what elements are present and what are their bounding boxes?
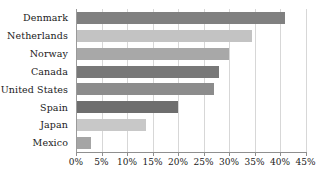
category-label: United States xyxy=(0,81,72,99)
axis-tick xyxy=(229,152,230,156)
category-label: Netherlands xyxy=(0,27,72,45)
category-label: Norway xyxy=(0,45,72,63)
axis-tick-label: 0% xyxy=(69,157,83,167)
axis-tick-label: 45% xyxy=(295,157,315,167)
bar xyxy=(76,66,219,78)
axis-tick-label: 35% xyxy=(244,157,264,167)
category-axis-labels: Denmark Netherlands Norway Canada United… xyxy=(0,9,72,152)
bar-series xyxy=(76,9,306,152)
bar-row xyxy=(76,63,306,81)
bar-row xyxy=(76,45,306,63)
value-axis-spine xyxy=(76,9,77,153)
axis-tick-label: 10% xyxy=(117,157,137,167)
bar-row xyxy=(76,98,306,116)
axis-tick-label: 25% xyxy=(193,157,213,167)
bar xyxy=(76,12,285,24)
category-label: Canada xyxy=(0,63,72,81)
bar-row xyxy=(76,116,306,134)
bar xyxy=(76,137,91,149)
gridline xyxy=(306,9,307,152)
axis-tick xyxy=(153,152,154,156)
axis-tick-label: 30% xyxy=(219,157,239,167)
axis-tick xyxy=(178,152,179,156)
bar xyxy=(76,30,252,42)
axis-tick xyxy=(204,152,205,156)
category-label: Denmark xyxy=(0,9,72,27)
axis-tick xyxy=(127,152,128,156)
value-axis-tick-labels: 0%5%10%15%20%25%30%35%40%45% xyxy=(0,157,331,179)
axis-tick xyxy=(102,152,103,156)
bar-row xyxy=(76,81,306,99)
value-axis-line xyxy=(76,152,306,153)
bar-row xyxy=(76,134,306,152)
bar xyxy=(76,83,214,95)
axis-tick-label: 5% xyxy=(94,157,108,167)
category-label: Mexico xyxy=(0,134,72,152)
bar xyxy=(76,119,146,131)
axis-tick-label: 15% xyxy=(142,157,162,167)
axis-tick-label: 40% xyxy=(270,157,290,167)
axis-tick xyxy=(76,152,77,156)
bar xyxy=(76,48,229,60)
axis-tick xyxy=(255,152,256,156)
axis-tick xyxy=(306,152,307,156)
category-label: Spain xyxy=(0,98,72,116)
bar-row xyxy=(76,27,306,45)
category-label: Japan xyxy=(0,116,72,134)
plot-area xyxy=(76,9,306,152)
bar xyxy=(76,101,178,113)
axis-tick-label: 20% xyxy=(168,157,188,167)
bar-chart: Denmark Netherlands Norway Canada United… xyxy=(0,0,331,185)
bar-row xyxy=(76,9,306,27)
axis-tick xyxy=(280,152,281,156)
